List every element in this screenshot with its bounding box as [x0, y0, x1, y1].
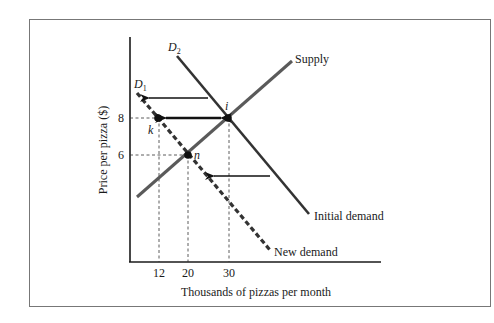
x-tick-12: 12 — [153, 266, 165, 280]
label-d2-subscript: 2 — [177, 47, 181, 56]
label-d2-letter: D — [167, 40, 177, 54]
x-axis-title: Thousands of pizzas per month — [181, 285, 331, 299]
supply-demand-chart: i k n Supply Initial demand New demand D… — [0, 0, 494, 323]
label-point-i: i — [225, 99, 228, 113]
label-d1-subscript: 1 — [143, 84, 147, 93]
label-new-demand: New demand — [274, 245, 338, 259]
label-point-k: k — [148, 123, 154, 137]
y-axis-title: Price per pizza ($) — [96, 106, 110, 194]
x-tick-20: 20 — [182, 266, 194, 280]
point-i — [224, 114, 232, 122]
point-n — [184, 151, 192, 159]
label-d1-letter: D — [133, 77, 143, 91]
y-tick-8: 8 — [118, 111, 124, 125]
label-supply: Supply — [295, 52, 329, 66]
label-point-n: n — [194, 148, 200, 162]
point-k — [154, 114, 162, 122]
label-initial-demand: Initial demand — [314, 209, 384, 223]
x-tick-30: 30 — [223, 266, 235, 280]
y-tick-6: 6 — [118, 148, 124, 162]
